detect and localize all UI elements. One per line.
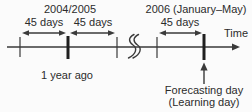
time-axis-arrowhead-icon (232, 44, 240, 51)
interval-label-2: 45 days (74, 16, 113, 28)
forecast-arrow-icon (200, 63, 207, 85)
timeline-diagram: 2004/2005 2006 (January–May) 45 days 45 … (0, 0, 252, 112)
interval-label-1: 45 days (25, 16, 64, 28)
time-axis-label: Time (224, 27, 248, 39)
axis-break-icon (129, 35, 141, 59)
interval-arrow-3-icon (159, 30, 202, 35)
interval-label-3: 45 days (161, 16, 200, 28)
interval-arrow-2-icon (70, 30, 115, 35)
past-label: 1 year ago (41, 69, 93, 81)
interval-arrow-1-icon (22, 30, 66, 35)
period-label-2004-2005: 2004/2005 (44, 3, 96, 15)
forecast-annotation-line1: Forecasting day (165, 84, 243, 96)
period-label-2006: 2006 (January–May) (146, 3, 247, 15)
forecast-annotation-line2: (Learning day) (169, 96, 240, 108)
